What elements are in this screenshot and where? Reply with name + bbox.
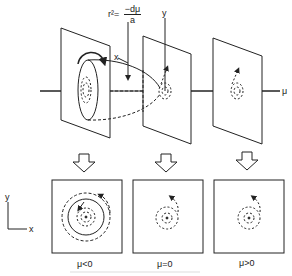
equation-numerator: −dμ	[124, 4, 141, 15]
y-axis-label-3d: y	[162, 8, 167, 18]
radius-equation: r²= −dμ a	[108, 4, 141, 25]
y-axis-label-2d: y	[5, 192, 10, 202]
xy-axes	[8, 202, 27, 229]
x-axis-label-3d: x	[114, 52, 119, 62]
equation-denominator: a	[124, 15, 141, 25]
plane-mu-positive	[213, 38, 262, 144]
panel-label-mu-negative: μ<0	[77, 259, 92, 269]
hopf-bifurcation-diagram	[0, 0, 292, 276]
panel-label-mu-zero: μ=0	[157, 259, 172, 269]
down-arrow-1	[73, 154, 95, 172]
plane-mu-zero	[143, 36, 191, 144]
down-arrow-3	[236, 152, 258, 170]
mu-axis-label: μ	[282, 86, 287, 96]
panel-label-mu-positive: μ>0	[239, 258, 254, 268]
equation-lhs: r²=	[108, 9, 119, 19]
x-axis-label-2d: x	[29, 224, 34, 234]
plane-mu-negative	[61, 28, 110, 138]
panel-mu-zero	[133, 180, 203, 253]
down-arrow-2	[155, 154, 177, 172]
